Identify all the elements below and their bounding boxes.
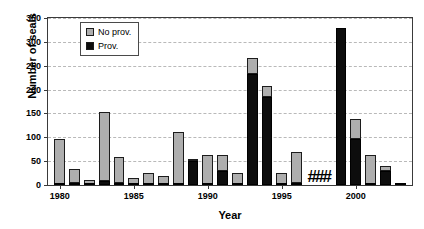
bar-segment-noprov-2001 xyxy=(365,155,376,184)
x-axis-title: Year xyxy=(47,209,413,221)
bar-segment-prov-1980 xyxy=(54,183,65,185)
bar-segment-noprov-1980 xyxy=(54,139,65,184)
y-tick-label-350: 350 xyxy=(26,13,41,23)
bar-segment-noprov-1994 xyxy=(262,86,273,96)
legend-label-prov: Prov. xyxy=(98,41,118,51)
bar-segment-prov-2000 xyxy=(350,139,361,185)
y-tick-350 xyxy=(44,18,48,19)
bar-segment-noprov-1991 xyxy=(217,155,228,170)
legend-swatch-noprov-icon xyxy=(86,28,94,36)
bar-segment-prov-2002 xyxy=(380,171,391,185)
bar-1989 xyxy=(188,159,199,185)
bar-segment-prov-1994 xyxy=(262,97,273,185)
y-tick-label-50: 50 xyxy=(31,156,41,166)
bar-segment-noprov-1988 xyxy=(173,132,184,185)
bar-1981 xyxy=(69,169,80,185)
bar-1992 xyxy=(232,173,243,185)
bar-segment-prov-1981 xyxy=(69,183,80,185)
y-tick-100 xyxy=(44,137,48,138)
legend-item-noprov: No prov. xyxy=(86,27,131,37)
bar-segment-prov-1996 xyxy=(291,183,302,185)
x-tick-label-2000: 2000 xyxy=(346,191,366,201)
bar-1984 xyxy=(114,157,125,185)
y-tick-label-200: 200 xyxy=(26,85,41,95)
bar-1990 xyxy=(202,155,213,185)
bar-segment-prov-1985 xyxy=(128,183,139,185)
bar-segment-noprov-1993 xyxy=(247,58,258,75)
bar-segment-prov-2001 xyxy=(365,183,376,185)
bar-segment-prov-1984 xyxy=(114,183,125,185)
bar-1995 xyxy=(276,173,287,185)
y-tick-300 xyxy=(44,42,48,43)
bar-segment-prov-1995 xyxy=(276,183,287,185)
bar-segment-prov-1987 xyxy=(158,183,169,185)
bar-1988 xyxy=(173,132,184,185)
bar-2001 xyxy=(365,155,376,185)
bar-segment-prov-1991 xyxy=(217,171,228,185)
bar-1986 xyxy=(143,173,154,185)
bar-1982 xyxy=(84,180,95,185)
y-tick-label-300: 300 xyxy=(26,37,41,47)
y-tick-200 xyxy=(44,90,48,91)
bar-segment-prov-1993 xyxy=(247,74,258,185)
y-tick-150 xyxy=(44,113,48,114)
gridline-y-200 xyxy=(48,90,412,91)
y-tick-label-0: 0 xyxy=(36,180,41,190)
bar-segment-prov-1986 xyxy=(143,183,154,185)
bar-segment-noprov-2000 xyxy=(350,119,361,139)
legend-label-noprov: No prov. xyxy=(98,27,131,37)
bar-1983 xyxy=(99,112,110,185)
bar-segment-prov-1990 xyxy=(202,183,213,185)
bar-1991 xyxy=(217,155,228,185)
x-tick-1990 xyxy=(208,185,209,189)
gridline-y-250 xyxy=(48,66,412,67)
bar-segment-prov-1983 xyxy=(99,181,110,185)
bar-1987 xyxy=(158,176,169,185)
x-tick-1995 xyxy=(282,185,283,189)
y-tick-0 xyxy=(44,185,48,186)
bar-1993 xyxy=(247,58,258,185)
x-tick-label-1995: 1995 xyxy=(272,191,292,201)
bar-segment-prov-1989 xyxy=(188,161,199,185)
bar-1980 xyxy=(54,139,65,185)
bar-2000 xyxy=(350,119,361,185)
bar-1985 xyxy=(128,178,139,185)
bar-segment-prov-1999 xyxy=(336,28,347,185)
x-tick-label-1980: 1980 xyxy=(50,191,70,201)
bar-1999 xyxy=(336,28,347,185)
x-tick-2000 xyxy=(356,185,357,189)
bar-1994 xyxy=(262,86,273,185)
bar-segment-noprov-1990 xyxy=(202,155,213,184)
x-tick-label-1990: 1990 xyxy=(198,191,218,201)
missing-data-marker: ### xyxy=(308,168,330,185)
bar-2003 xyxy=(395,183,406,185)
bar-segment-prov-1988 xyxy=(173,183,184,185)
x-tick-label-1985: 1985 xyxy=(124,191,144,201)
legend-swatch-prov-icon xyxy=(86,42,94,50)
bar-segment-noprov-1983 xyxy=(99,112,110,181)
bar-1996 xyxy=(291,152,302,185)
bar-2002 xyxy=(380,166,391,185)
chart-legend: No prov.Prov. xyxy=(80,22,139,56)
bar-segment-prov-2003 xyxy=(395,183,406,185)
bar-segment-noprov-1984 xyxy=(114,157,125,183)
bar-segment-prov-1992 xyxy=(232,183,243,185)
x-tick-1985 xyxy=(134,185,135,189)
y-tick-label-100: 100 xyxy=(26,132,41,142)
seal-bar-chart: Number of seals 050100150200250300350198… xyxy=(0,0,424,229)
gridline-y-350 xyxy=(48,18,412,19)
bar-segment-noprov-1981 xyxy=(69,169,80,183)
bar-segment-prov-1982 xyxy=(84,183,95,185)
bar-segment-noprov-1996 xyxy=(291,152,302,183)
y-tick-label-150: 150 xyxy=(26,108,41,118)
y-tick-label-250: 250 xyxy=(26,61,41,71)
y-tick-250 xyxy=(44,66,48,67)
x-tick-1980 xyxy=(60,185,61,189)
y-tick-50 xyxy=(44,161,48,162)
legend-item-prov: Prov. xyxy=(86,41,131,51)
